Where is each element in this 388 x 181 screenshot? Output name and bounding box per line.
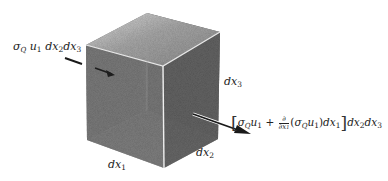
dx1-text: dx: [108, 158, 121, 171]
sigma2-symbol: σ: [294, 116, 301, 128]
outflow-flux-label: [σQu1 + ∂∂x1(σQu1)dx1]dx2dx3: [231, 115, 382, 132]
dx3-sub: 3: [237, 80, 242, 89]
inflow-arrow-tail: [65, 58, 82, 64]
edge-label-dx1: dx1: [108, 159, 126, 172]
fraction-denominator: ∂x1: [279, 124, 290, 131]
sigma-subscript: Q: [21, 46, 27, 54]
dx3-symbol: dx: [63, 40, 76, 53]
sigma-symbol: σ: [238, 116, 245, 128]
dx1-sub: 1: [121, 163, 126, 172]
plus-sign: +: [262, 116, 277, 128]
dx3-symbol: dx: [365, 116, 378, 128]
edge-label-dx2: dx2: [196, 147, 214, 160]
u-symbol: u: [30, 40, 37, 53]
inflow-flux-label: σQ u1 dx2dx3: [13, 41, 81, 54]
dx3-text: dx: [224, 75, 237, 88]
dx2-symbol: dx: [347, 116, 360, 128]
u-subscript: 1: [37, 45, 42, 54]
dx2-text: dx: [196, 146, 209, 159]
dx3-subscript: 3: [377, 121, 382, 130]
partial-derivative-fraction: ∂∂x1: [279, 116, 290, 131]
dx1-symbol: dx: [323, 116, 336, 128]
sigma-symbol: σ: [13, 40, 21, 53]
dx3-subscript: 3: [76, 45, 81, 54]
dx2-symbol: dx: [45, 40, 58, 53]
dx2-sub: 2: [209, 151, 214, 160]
open-bracket: [: [231, 113, 238, 133]
cube-diagram: [0, 0, 388, 181]
front-vertical-edge: [163, 66, 164, 168]
denominator-sub: 1: [286, 124, 289, 130]
edge-label-dx3: dx3: [224, 76, 242, 89]
